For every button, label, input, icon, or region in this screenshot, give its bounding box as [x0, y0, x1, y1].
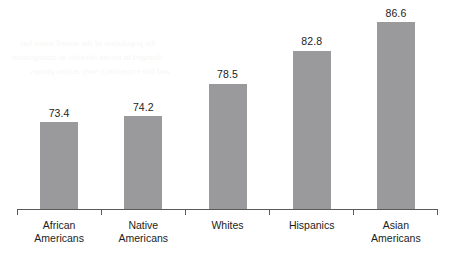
- bar-chart: the population of the united states has …: [0, 0, 453, 254]
- bar-value-label: 74.2: [133, 102, 154, 113]
- x-axis-labels: African Americans Native Americans White…: [17, 219, 438, 245]
- bar-group-hispanics: 82.8: [270, 0, 354, 209]
- x-label-african-americans: African Americans: [17, 219, 101, 245]
- x-label-native-americans: Native Americans: [101, 219, 185, 245]
- x-axis-tick: [353, 209, 354, 215]
- x-axis-line: [17, 209, 438, 210]
- bar-rect: [40, 122, 78, 209]
- bar-group-whites: 78.5: [185, 0, 269, 209]
- x-label-line1: Native: [128, 219, 158, 231]
- bar-value-label: 73.4: [49, 108, 70, 119]
- x-axis-tick: [185, 209, 186, 215]
- bar-group-asian-americans: 86.6: [354, 0, 438, 209]
- plot-area: 73.4 74.2 78.5 82.8 86.6: [17, 0, 438, 209]
- x-label-hispanics: Hispanics: [270, 219, 354, 245]
- bar-value-label: 86.6: [385, 8, 406, 19]
- x-axis-tick: [17, 209, 18, 215]
- bar-group-native-americans: 74.2: [101, 0, 185, 209]
- x-label-line2: Americans: [354, 232, 438, 245]
- bar-group-african-americans: 73.4: [17, 0, 101, 209]
- x-axis-tick: [101, 209, 102, 215]
- x-label-line1: Hispanics: [289, 219, 335, 231]
- bar-rect: [377, 22, 415, 209]
- x-label-whites: Whites: [185, 219, 269, 245]
- x-label-line1: Asian: [383, 219, 409, 231]
- x-axis-tick: [437, 209, 438, 215]
- bar-rect: [124, 116, 162, 209]
- x-label-asian-americans: Asian Americans: [354, 219, 438, 245]
- x-label-line2: Americans: [101, 232, 185, 245]
- bar-value-label: 82.8: [301, 36, 322, 47]
- bar-value-label: 78.5: [217, 69, 238, 80]
- x-label-line1: Whites: [211, 219, 243, 231]
- x-axis-tick: [269, 209, 270, 215]
- bar-rect: [209, 84, 247, 209]
- bar-rect: [293, 51, 331, 209]
- x-label-line2: Americans: [17, 232, 101, 245]
- x-label-line1: African: [43, 219, 76, 231]
- bar-series: 73.4 74.2 78.5 82.8 86.6: [17, 0, 438, 209]
